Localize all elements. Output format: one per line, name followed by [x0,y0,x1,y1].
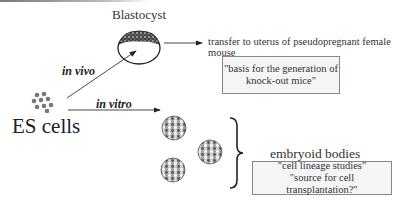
embryoid-box-line1: "cell lineage studies" [253,160,391,172]
knockout-box-line2: knock-out mice" [223,75,339,87]
knockout-box-line1: "basis for the generation of [223,63,339,75]
in-vitro-label: in vitro [96,97,132,112]
embryoid-uses-box: "cell lineage studies" "source for cell … [252,161,392,195]
in-vivo-label: in vivo [62,64,95,79]
es-cells-label: ES cells [12,114,80,139]
embryoid-box-line2: "source for cell transplantation?" [253,172,391,196]
brace-icon [230,118,243,188]
transfer-text: transfer to uterus of pseudopregnant fem… [208,36,398,58]
blastocyst-label: Blastocyst [112,7,166,23]
es-cells-icon [32,92,54,114]
knockout-mice-box: "basis for the generation of knock-out m… [222,56,340,94]
embryoid-bodies-icon [161,116,222,182]
